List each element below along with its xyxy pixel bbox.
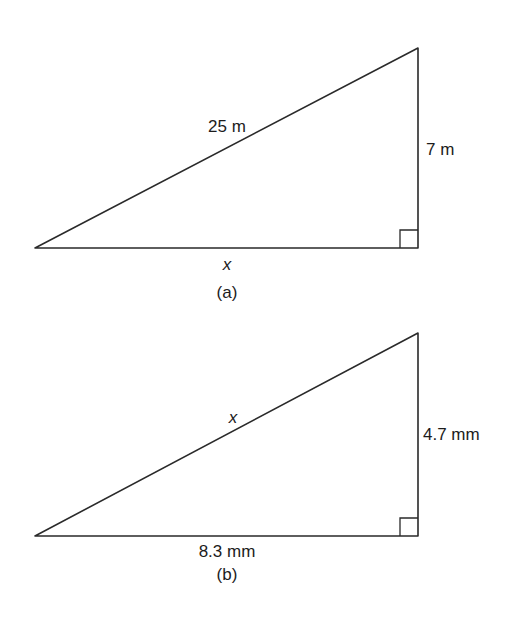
caption-a: (a) <box>217 283 238 302</box>
caption-b: (b) <box>217 565 238 584</box>
hypotenuse-label-b: x <box>228 408 238 427</box>
triangle-a-outline <box>35 48 418 248</box>
triangle-b-outline <box>35 333 418 536</box>
right-angle-marker-a <box>400 230 418 248</box>
base-label-a: x <box>222 255 232 274</box>
base-label-b: 8.3 mm <box>199 542 256 561</box>
right-angle-marker-b <box>400 518 418 536</box>
triangle-b: x 4.7 mm 8.3 mm (b) <box>35 333 480 584</box>
diagram-canvas: 25 m 7 m x (a) x 4.7 mm 8.3 mm (b) <box>0 0 530 617</box>
vertical-side-label-b: 4.7 mm <box>423 425 480 444</box>
hypotenuse-label-a: 25 m <box>208 117 246 136</box>
triangle-a: 25 m 7 m x (a) <box>35 48 454 302</box>
vertical-side-label-a: 7 m <box>426 140 454 159</box>
